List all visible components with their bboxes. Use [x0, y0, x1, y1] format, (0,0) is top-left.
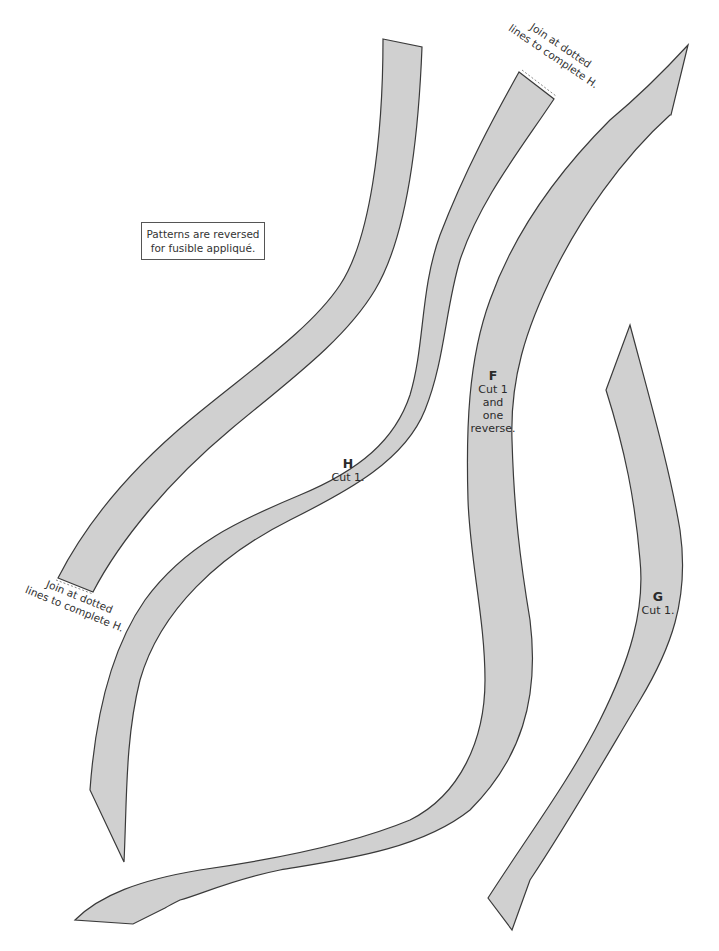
piece-letter-f: F [458, 369, 528, 383]
piece-instruction-f-line-2: and [458, 396, 528, 409]
piece-letter-g: G [628, 590, 688, 604]
pattern-piece-h-upper [58, 39, 422, 592]
piece-letter-h: H [318, 457, 378, 471]
piece-instruction-f-line-1: Cut 1 [458, 383, 528, 396]
piece-label-h: H Cut 1. [318, 457, 378, 484]
note-line-2: for fusible appliqué. [142, 241, 264, 255]
piece-label-g: G Cut 1. [628, 590, 688, 617]
piece-instruction-f-line-3: one [458, 409, 528, 422]
piece-instruction-f-line-4: reverse. [458, 422, 528, 435]
piece-instruction-h: Cut 1. [332, 471, 365, 484]
reversed-pattern-note: Patterns are reversed for fusible appliq… [141, 222, 265, 260]
note-line-1: Patterns are reversed [142, 227, 264, 241]
piece-label-f: F Cut 1 and one reverse. [458, 369, 528, 435]
piece-instruction-g: Cut 1. [642, 604, 675, 617]
